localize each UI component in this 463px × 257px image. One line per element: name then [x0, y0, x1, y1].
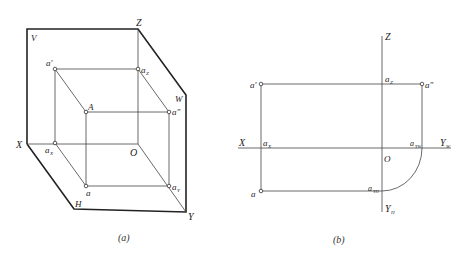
label-a: a — [86, 188, 91, 198]
svg-text:Y: Y — [177, 188, 181, 193]
label-a-double-prime-b: a" — [425, 80, 434, 90]
svg-text:X: X — [49, 151, 54, 156]
label-ayh-b: a YH — [368, 184, 380, 194]
label-a-prime: a' — [46, 58, 54, 68]
label-Z-b: Z — [385, 31, 391, 42]
point-a-prime — [53, 67, 57, 71]
figure-a: V Z W X O H Y a' A a a" a Z a X a Y (a) — [15, 17, 195, 244]
point-a-prime-b — [259, 82, 263, 86]
caption-a: (a) — [118, 232, 130, 244]
label-V: V — [31, 33, 38, 43]
label-X: X — [15, 139, 23, 150]
label-Y: Y — [188, 211, 195, 222]
label-YH: Y H — [385, 203, 395, 215]
figure-b: Z X O Y W Y H a' a" a a Z a X a YW a YH … — [238, 31, 451, 246]
y-axis — [138, 144, 186, 212]
svg-text:YH: YH — [373, 189, 380, 194]
label-a-b: a — [251, 189, 256, 199]
svg-text:Z: Z — [390, 80, 393, 85]
projection-diagram: V Z W X O H Y a' A a a" a Z a X a Y (a) — [0, 0, 463, 257]
svg-text:Z: Z — [146, 71, 149, 76]
label-X-b: X — [238, 137, 246, 148]
point-az — [136, 67, 140, 71]
point-ax — [53, 141, 57, 145]
label-W: W — [175, 94, 184, 104]
label-ayw-b: a YW — [410, 139, 423, 149]
label-A: A — [87, 102, 94, 112]
point-a-double-prime — [167, 110, 171, 114]
label-ay: a Y — [172, 182, 181, 193]
svg-text:H: H — [390, 210, 395, 215]
label-az-b: a Z — [385, 74, 393, 85]
label-a-double-prime: a" — [172, 107, 181, 117]
label-a-prime-b: a' — [250, 80, 258, 90]
label-YW: Y W — [440, 137, 451, 149]
label-ax: a X — [45, 145, 54, 156]
label-O-b: O — [384, 154, 391, 164]
v-plane-outline — [27, 29, 186, 212]
label-Z: Z — [136, 17, 142, 28]
line-ax-a — [55, 143, 86, 186]
label-H: H — [74, 199, 82, 209]
line-az-a-double-prime — [138, 69, 169, 112]
caption-b: (b) — [333, 234, 345, 246]
svg-text:a: a — [368, 184, 372, 193]
point-a-double-prime-b — [420, 82, 424, 86]
point-ay — [167, 184, 171, 188]
label-O: O — [130, 147, 137, 158]
svg-text:a: a — [410, 139, 414, 148]
point-a-b — [259, 189, 263, 193]
line-a-prime-A — [55, 69, 86, 112]
label-az: a Z — [141, 65, 149, 76]
label-ax-b: a X — [263, 138, 272, 149]
